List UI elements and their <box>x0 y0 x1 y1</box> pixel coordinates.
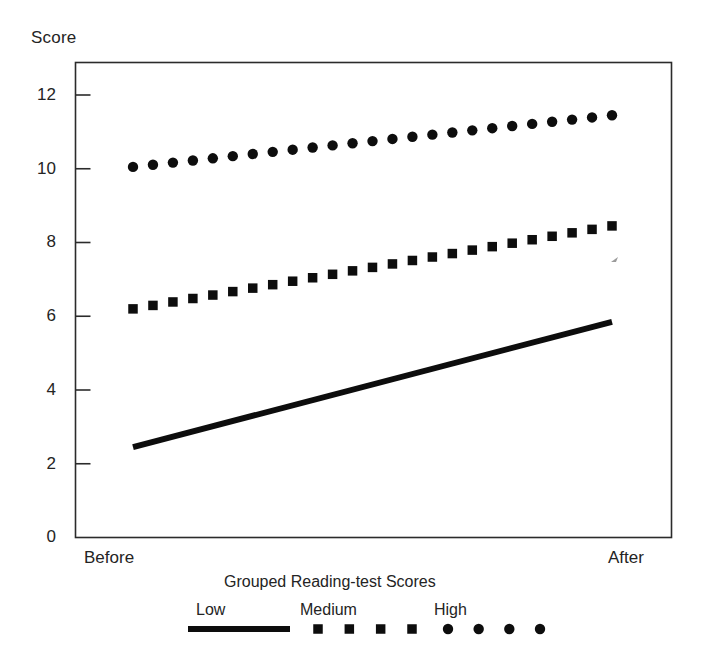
marker-high <box>287 144 297 154</box>
marker-high <box>507 121 517 131</box>
marker-medium <box>507 238 517 248</box>
marker-medium <box>308 273 318 283</box>
y-axis-tick-marks <box>76 95 91 464</box>
x-category-label-after: After <box>608 548 644 568</box>
marker-medium <box>527 235 537 245</box>
marker-high <box>387 134 397 144</box>
marker-medium <box>168 297 178 307</box>
legend-label-low: Low <box>196 601 225 619</box>
legend-label-medium: Medium <box>300 601 357 619</box>
marker-high <box>467 125 477 135</box>
y-tick-label-4: 4 <box>22 380 56 400</box>
marker-medium <box>148 301 158 311</box>
marker-medium <box>468 245 478 255</box>
series-high <box>128 110 617 172</box>
legend-marker-medium <box>376 624 386 634</box>
legend-swatch-medium <box>313 624 417 634</box>
marker-medium <box>348 266 358 276</box>
legend-title: Grouped Reading-test Scores <box>224 573 436 591</box>
legend-marker-high <box>535 624 545 634</box>
y-tick-label-0: 0 <box>22 527 56 547</box>
legend-swatch-high <box>443 624 545 634</box>
marker-high <box>228 151 238 161</box>
marker-medium <box>248 283 258 293</box>
marker-medium <box>488 242 498 252</box>
y-tick-label-2: 2 <box>22 454 56 474</box>
marker-medium <box>228 287 238 297</box>
x-category-label-before: Before <box>84 548 134 568</box>
marker-medium <box>547 232 557 242</box>
series-layer <box>128 110 617 447</box>
legend-label-high: High <box>434 601 467 619</box>
marker-high <box>208 153 218 163</box>
marker-high <box>567 114 577 124</box>
marker-medium <box>128 304 138 314</box>
series-low-line <box>133 322 612 447</box>
marker-high <box>268 147 278 157</box>
marker-medium <box>448 249 458 259</box>
chart-figure: Score 12 10 8 6 4 2 0 Before After Group… <box>0 0 704 658</box>
series-medium <box>128 221 617 313</box>
marker-medium <box>428 252 438 262</box>
legend-marker-medium <box>345 624 355 634</box>
marker-high <box>168 157 178 167</box>
marker-high <box>188 155 198 165</box>
marker-high <box>327 140 337 150</box>
marker-medium <box>268 280 278 290</box>
y-axis-title: Score <box>31 28 76 48</box>
marker-high <box>367 136 377 146</box>
marker-medium <box>567 228 577 238</box>
marker-high <box>248 149 258 159</box>
marker-high <box>407 132 417 142</box>
marker-medium <box>587 225 597 235</box>
marker-high <box>128 162 138 172</box>
y-tick-label-8: 8 <box>22 232 56 252</box>
series-low <box>133 322 612 447</box>
marker-medium <box>408 256 418 266</box>
marker-medium <box>188 294 198 304</box>
marker-medium <box>388 259 398 269</box>
legend-marker-medium <box>407 624 417 634</box>
marker-high <box>547 117 557 127</box>
y-tick-label-12: 12 <box>22 85 56 105</box>
marker-medium <box>368 263 378 273</box>
marker-high <box>447 127 457 137</box>
legend-marker-high <box>473 624 483 634</box>
scan-artifact <box>611 257 618 262</box>
legend-marker-medium <box>313 624 323 634</box>
y-tick-label-6: 6 <box>22 306 56 326</box>
marker-medium <box>607 221 617 231</box>
marker-medium <box>328 270 338 280</box>
marker-high <box>427 129 437 139</box>
y-tick-label-10: 10 <box>22 159 56 179</box>
marker-high <box>607 110 617 120</box>
marker-high <box>148 160 158 170</box>
marker-high <box>307 142 317 152</box>
plot-frame <box>76 63 672 538</box>
legend-swatches <box>188 624 545 634</box>
marker-high <box>487 123 497 133</box>
marker-high <box>527 119 537 129</box>
marker-high <box>587 112 597 122</box>
marker-medium <box>288 276 298 286</box>
legend-marker-high <box>443 624 453 634</box>
legend-marker-high <box>504 624 514 634</box>
marker-medium <box>208 290 218 300</box>
marker-high <box>347 138 357 148</box>
